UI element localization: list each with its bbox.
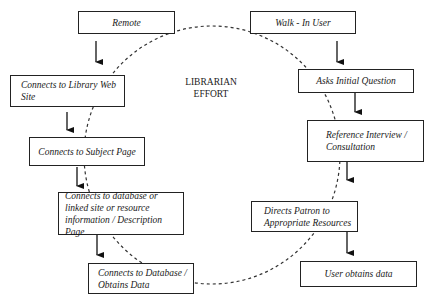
- walk-in-user-box: Walk - In User: [250, 11, 356, 34]
- library-web-site-box: Connects to Library Web Site: [10, 75, 125, 107]
- asks-initial-question-box: Asks Initial Question: [298, 69, 414, 93]
- resource-description-box: Connects to database or linked site or r…: [58, 192, 184, 235]
- user-obtains-data-label: User obtains data: [324, 268, 392, 280]
- librarian-effort-label: LIBRARIAN EFFORT: [180, 76, 242, 100]
- obtains-data-label: Connects to Database / Obtains Data: [98, 267, 187, 291]
- library-web-site-label: Connects to Library Web Site: [21, 79, 116, 103]
- directs-patron-box: Directs Patron to Appropriate Resources: [251, 201, 358, 232]
- remote-label: Remote: [112, 17, 141, 29]
- walk-in-user-label: Walk - In User: [275, 17, 330, 29]
- user-obtains-data-box: User obtains data: [300, 261, 417, 287]
- resource-description-label: Connects to database or linked site or r…: [65, 190, 179, 238]
- obtains-data-box: Connects to Database / Obtains Data: [88, 263, 194, 294]
- label-line-1: LIBRARIAN: [180, 76, 242, 88]
- directs-patron-label: Directs Patron to Appropriate Resources: [264, 205, 353, 229]
- subject-page-box: Connects to Subject Page: [29, 137, 145, 166]
- reference-interview-box: Reference Interview / Consultation: [307, 120, 424, 162]
- asks-initial-question-label: Asks Initial Question: [316, 75, 396, 87]
- label-line-2: EFFORT: [180, 88, 242, 100]
- reference-interview-label: Reference Interview / Consultation: [326, 129, 413, 153]
- subject-page-label: Connects to Subject Page: [38, 146, 135, 158]
- remote-box: Remote: [78, 11, 175, 34]
